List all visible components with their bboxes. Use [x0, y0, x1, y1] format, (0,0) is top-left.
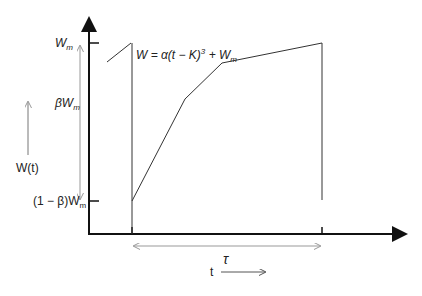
x-axis-label: t — [210, 266, 213, 278]
cubic-growth-curve — [132, 43, 322, 201]
label-beta-w: βWm — [55, 97, 80, 112]
pre-loss-curve — [107, 43, 131, 62]
label-w-max: Wm — [55, 37, 73, 52]
tau-label: τ — [223, 252, 228, 266]
equation-label: W = α(t − K)3 + Wm — [136, 48, 237, 64]
label-w-low: (1 − β)Wm — [33, 195, 86, 210]
y-axis-label: W(t) — [16, 162, 39, 174]
